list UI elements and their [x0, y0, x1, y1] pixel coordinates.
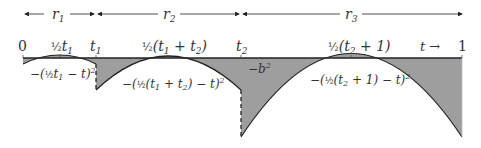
- tick-half-t1: ½t1: [51, 38, 73, 56]
- tick-half-t1-plus-t2: ½(t1 + t2): [142, 38, 207, 56]
- range-label-r1: r1: [52, 6, 64, 24]
- label-curve-2: −(½(t1 + t2) − t)2: [122, 76, 225, 92]
- range-label-r2: r2: [163, 6, 176, 24]
- tick-t1: t1: [90, 38, 101, 56]
- tick-t2: t2: [236, 38, 248, 56]
- t-direction-arrow: t →: [420, 39, 440, 54]
- discontinuity-dashes: [96, 64, 241, 137]
- label-curve-3: −(½(t2 + 1) − t)2: [310, 72, 410, 88]
- range-label-r3: r3: [345, 6, 358, 24]
- tick-one: 1: [458, 38, 467, 54]
- label-curve-1: −(½t1 − t)2: [30, 66, 96, 82]
- tick-labels: 0 ½t1 t1 ½(t1 + t2) t2 ½(t2 + 1) t → 1: [18, 38, 467, 56]
- tick-half-t2-plus-1: ½(t2 + 1): [328, 38, 391, 56]
- range-arrows: r1 r2 r3: [25, 6, 462, 24]
- tick-zero: 0: [18, 38, 27, 54]
- parabola-segments-diagram: r1 r2 r3 0 ½t1 t1 ½(t: [0, 0, 481, 148]
